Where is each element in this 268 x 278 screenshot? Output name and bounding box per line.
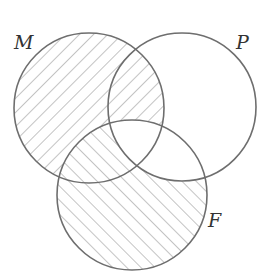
venn-diagram: [0, 0, 268, 278]
set-label-m: M: [14, 33, 33, 52]
set-label-p: P: [236, 33, 249, 52]
shaded-region-f-not-p: [0, 0, 268, 278]
set-label-f: F: [208, 211, 221, 230]
